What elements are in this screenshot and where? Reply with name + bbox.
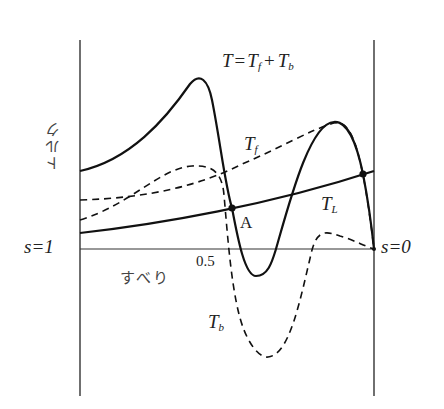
total-torque-label: T=Tf+Tb [222,50,294,72]
point-a-label: A [240,213,252,233]
point-a-marker [228,204,235,211]
mid-tick-label: 0.5 [196,253,215,270]
torque-axis-title: トルク [42,120,63,171]
total-torque-curve [80,78,374,276]
stable-point-marker [359,170,366,177]
forward-torque-label: Tf [244,133,258,155]
backward-torque-label: Tb [208,311,224,333]
s0-label: s=0 [381,236,411,258]
s1-label: s=1 [24,236,54,258]
origin-s0-marker [372,247,376,251]
slip-axis-title: すべり [120,266,170,287]
load-torque-label: TL [321,193,338,215]
